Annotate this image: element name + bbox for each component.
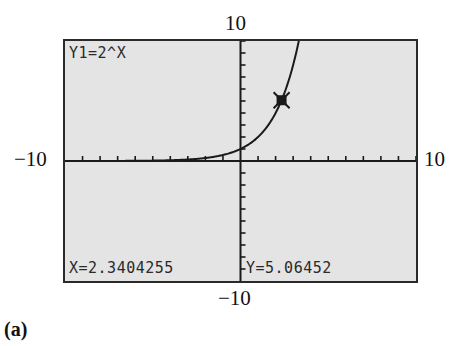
ymin-label: −10: [218, 288, 251, 309]
graph-plot: [65, 41, 416, 281]
xmax-label: 10: [424, 149, 445, 170]
ymax-label: 10: [225, 13, 246, 34]
y-coordinate-readout: Y=5.06452: [246, 261, 332, 276]
xmin-label: −10: [14, 149, 47, 170]
function-label: Y1=2^X: [69, 46, 126, 61]
figure-sub-label: (a): [4, 318, 27, 341]
x-coordinate-readout: X=2.3404255: [69, 261, 174, 276]
calculator-graph-screen: Y1=2^X X=2.3404255 Y=5.06452: [63, 39, 418, 283]
